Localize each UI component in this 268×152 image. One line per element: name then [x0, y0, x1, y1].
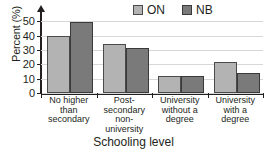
- y-tick-mark-50: [37, 21, 41, 22]
- y-tick-label-50: 50: [19, 17, 35, 25]
- x-category-label: No higherthansecondary: [41, 96, 97, 125]
- x-category-label-line: secondary: [41, 115, 97, 125]
- bar-nb[interactable]: [70, 22, 93, 93]
- y-axis-tick-labels: 01020304050: [13, 0, 35, 152]
- bar-nb[interactable]: [237, 73, 260, 93]
- y-tick-mark-30: [37, 50, 41, 51]
- bar-on[interactable]: [214, 62, 237, 93]
- plot-area: [41, 14, 263, 93]
- x-category-label-line: degree: [152, 115, 208, 125]
- bar-on[interactable]: [47, 36, 70, 93]
- bar-group: [101, 14, 157, 93]
- bar-nb[interactable]: [126, 48, 149, 93]
- x-category-label-line: degree: [207, 115, 263, 125]
- bar-nb[interactable]: [181, 76, 204, 93]
- y-tick-label-30: 30: [19, 46, 35, 54]
- y-tick-label-40: 40: [19, 32, 35, 40]
- y-tick-mark-20: [37, 64, 41, 65]
- y-tick-mark-10: [37, 79, 41, 80]
- bar-group: [45, 14, 101, 93]
- y-tick-label-20: 20: [19, 60, 35, 68]
- legend-swatch-on-icon: [133, 5, 143, 15]
- x-category-label: Universitywithout adegree: [152, 96, 208, 125]
- bar-on[interactable]: [103, 44, 126, 93]
- y-tick-mark-40: [37, 36, 41, 37]
- bar-chart-figure: ON NB Percent (%) 01020304050 No highert…: [0, 0, 267, 152]
- x-category-label: Post-secondarynon-university: [96, 96, 152, 134]
- bar-group: [156, 14, 212, 93]
- x-axis-label: Schooling level: [0, 135, 267, 149]
- bar-group: [212, 14, 268, 93]
- bar-on[interactable]: [158, 76, 181, 93]
- x-category-label-line: university: [96, 125, 152, 135]
- y-tick-label-0: 0: [19, 89, 35, 97]
- y-tick-label-10: 10: [19, 75, 35, 83]
- x-category-label: Universitywith adegree: [207, 96, 263, 125]
- legend-swatch-nb-icon: [182, 5, 192, 15]
